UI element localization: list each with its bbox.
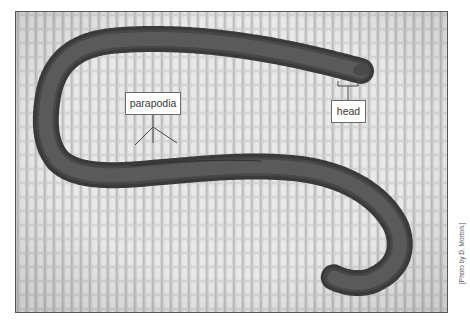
head-label: head — [331, 100, 366, 123]
photo-illustration — [16, 12, 448, 313]
worm-head — [353, 64, 369, 76]
photo-credit: [Photo by D. Morton.] — [458, 223, 465, 284]
parapodia-label: parapodia — [125, 92, 181, 115]
figure: parapodia head [Photo by D. Morton.] — [0, 0, 470, 327]
worm-photo — [15, 11, 448, 313]
